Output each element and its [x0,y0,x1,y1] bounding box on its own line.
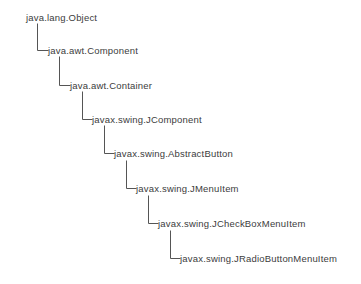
inheritance-connector [171,231,181,259]
inheritance-connector [83,92,93,120]
connector-elbow [105,126,115,154]
class-node-4: javax.swing.JComponent [92,114,202,125]
connector-elbow [83,92,93,120]
connector-elbow [127,161,137,189]
inheritance-connector [38,24,49,51]
class-node-6: javax.swing.JMenuItem [136,183,239,194]
inheritance-connector [127,161,137,189]
class-node-3: java.awt.Container [70,80,152,91]
connector-elbow [149,196,159,224]
class-node-8: javax.swing.JRadioButtonMenuItem [180,253,337,264]
connector-elbow [38,24,49,51]
connector-elbow [60,57,71,86]
connector-layer [0,0,361,284]
inheritance-connector [105,126,115,154]
class-node-2: java.awt.Component [48,45,138,56]
class-node-1: java.lang.Object [26,12,97,23]
class-hierarchy-diagram: java.lang.Objectjava.awt.Componentjava.a… [0,0,361,284]
class-node-5: javax.swing.AbstractButton [114,148,233,159]
class-node-7: javax.swing.JCheckBoxMenuItem [158,218,306,229]
inheritance-connector [149,196,159,224]
connector-elbow [171,231,181,259]
inheritance-connector [60,57,71,86]
